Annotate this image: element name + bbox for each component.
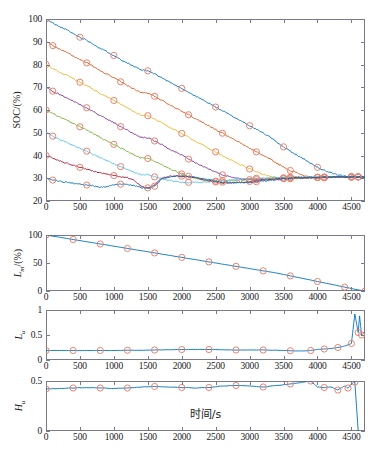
y-tickmark [46, 87, 50, 88]
x-tickmark [351, 356, 352, 360]
y-tick-label: 70 [33, 82, 42, 92]
x-tick-label: 2500 [207, 432, 225, 442]
x-tickmark [250, 427, 251, 431]
x-tick-label: 1000 [105, 292, 123, 302]
x-tickmark [80, 197, 81, 201]
x-tickmark [250, 381, 251, 385]
x-tickmark [351, 287, 352, 291]
y-tick-label: 1 [37, 305, 42, 315]
y-tickmark [361, 360, 365, 361]
y-tick-label: 0 [37, 426, 42, 436]
axis-label-y-lm: Lm/(%) [12, 249, 26, 277]
data-marker [111, 141, 117, 147]
x-tick-label: 4000 [308, 202, 326, 212]
x-tick-label: 2500 [207, 361, 225, 371]
x-tickmark [284, 356, 285, 360]
y-tickmark [46, 335, 50, 336]
axis-label-x-time: 时间/s [190, 405, 221, 421]
plot-area-lm [46, 235, 365, 291]
x-tickmark [317, 235, 318, 239]
x-tickmark [216, 19, 217, 23]
y-tickmark [361, 431, 365, 432]
y-tickmark [361, 133, 365, 134]
y-tickmark [361, 178, 365, 179]
x-tickmark [46, 197, 47, 201]
axis-label-y-hu: Hu [13, 401, 27, 412]
x-tickmark [182, 381, 183, 385]
x-tickmark [80, 287, 81, 291]
x-tickmark [216, 235, 217, 239]
y-tick-label: 80 [33, 60, 42, 70]
data-line [46, 110, 365, 182]
y-tickmark [46, 156, 50, 157]
x-tickmark [148, 235, 149, 239]
x-tickmark [80, 235, 81, 239]
x-tickmark [250, 310, 251, 314]
x-tickmark [148, 287, 149, 291]
x-tickmark [317, 427, 318, 431]
x-tick-label: 4500 [342, 361, 360, 371]
axis-label-y-soc: SOC/(%) [11, 91, 22, 128]
x-tickmark [148, 427, 149, 431]
y-tickmark [46, 133, 50, 134]
x-tick-label: 0 [44, 292, 49, 302]
x-tickmark [114, 197, 115, 201]
x-tick-label: 3000 [241, 202, 259, 212]
x-tick-label: 500 [73, 361, 87, 371]
x-tickmark [114, 427, 115, 431]
axis-label-y-lu-sub: u [19, 330, 27, 334]
x-tick-label: 3000 [241, 432, 259, 442]
x-tickmark [216, 356, 217, 360]
x-tick-label: 4500 [342, 292, 360, 302]
y-tickmark [361, 65, 365, 66]
x-tick-label: 3000 [241, 292, 259, 302]
chart-panel-lu: Lu 00.5105001000150020002500300035004000… [46, 310, 365, 360]
x-tickmark [317, 381, 318, 385]
x-tickmark [114, 19, 115, 23]
x-tickmark [182, 287, 183, 291]
y-tick-label: 50 [33, 258, 42, 268]
y-tick-label: 20 [33, 196, 42, 206]
y-tick-label: 0.5 [31, 330, 42, 340]
data-marker [185, 112, 191, 118]
y-tick-label: 0 [37, 355, 42, 365]
y-tick-label: 40 [33, 151, 42, 161]
x-tick-label: 0 [44, 202, 49, 212]
axis-label-y-lm-tail: /(%) [12, 249, 23, 267]
x-tickmark [46, 235, 47, 239]
x-tick-label: 0 [44, 361, 49, 371]
axis-label-y-lu: Lu [13, 330, 27, 339]
x-tick-label: 1500 [139, 292, 157, 302]
y-tickmark [361, 291, 365, 292]
y-tickmark [361, 42, 365, 43]
x-tick-label: 4500 [342, 202, 360, 212]
x-tickmark [250, 197, 251, 201]
x-tickmark [148, 19, 149, 23]
y-tickmark [361, 310, 365, 311]
x-tick-label: 3500 [274, 432, 292, 442]
x-tickmark [114, 356, 115, 360]
data-marker [287, 167, 293, 173]
y-tickmark [46, 110, 50, 111]
x-tickmark [46, 427, 47, 431]
x-tick-label: 1500 [139, 202, 157, 212]
x-tickmark [148, 310, 149, 314]
data-line [46, 65, 365, 179]
axis-label-y-soc-text: SOC/(%) [11, 91, 22, 128]
x-tickmark [284, 310, 285, 314]
x-tickmark [182, 427, 183, 431]
x-tick-label: 3500 [274, 202, 292, 212]
chart-panel-hu: Hu 时间/s 00.50500100015002000250030003500… [46, 381, 365, 431]
data-line [46, 132, 365, 182]
axis-label-y-hu-base: H [13, 404, 24, 411]
x-tickmark [216, 287, 217, 291]
x-tick-label: 4000 [308, 292, 326, 302]
x-tick-label: 2000 [173, 432, 191, 442]
x-tick-label: 3000 [241, 361, 259, 371]
x-tick-label: 3500 [274, 361, 292, 371]
y-tickmark [361, 201, 365, 202]
x-tickmark [317, 19, 318, 23]
x-tickmark [80, 427, 81, 431]
x-tick-label: 500 [73, 292, 87, 302]
x-tickmark [182, 310, 183, 314]
